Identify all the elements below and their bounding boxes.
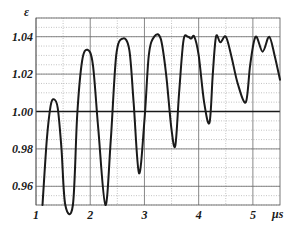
y-tick-label: 1.00: [12, 105, 33, 119]
y-tick-label: 1.04: [12, 30, 33, 44]
y-tick-label: 0.96: [12, 179, 33, 193]
x-axis-label: μs: [271, 207, 284, 221]
series-line: [43, 34, 281, 214]
y-tick-label: 1.02: [12, 67, 33, 81]
y-axis-tick-labels: 0.960.981.001.021.04: [12, 30, 33, 194]
x-tick-label: 3: [140, 208, 147, 222]
x-tick-label: 4: [195, 208, 202, 222]
y-tick-label: 0.98: [12, 142, 33, 156]
line-chart: 0.960.981.001.021.04 12345 ε μs: [0, 0, 296, 228]
x-tick-label: 2: [86, 208, 93, 222]
y-axis-label: ε: [24, 5, 29, 19]
x-tick-label: 5: [250, 208, 256, 222]
x-tick-label: 1: [33, 208, 39, 222]
